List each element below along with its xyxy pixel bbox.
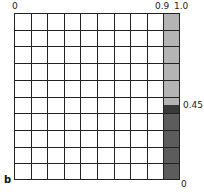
- right-axis-label-0: 0: [181, 180, 187, 189]
- grid-hline: [14, 46, 180, 47]
- top-axis-label-0.9: 0.9: [155, 2, 169, 11]
- unit-square-grid: [14, 13, 180, 180]
- grid-hline: [14, 13, 180, 14]
- grid-hline: [14, 163, 180, 164]
- grid-hline: [14, 80, 180, 81]
- grid-hline: [14, 147, 180, 148]
- grid-hline: [14, 63, 180, 64]
- grid-hline: [14, 113, 180, 114]
- grid-hline: [14, 130, 180, 131]
- right-axis-label-0.45: 0.45: [183, 101, 203, 110]
- top-axis-label-1.0: 1.0: [174, 2, 188, 11]
- grid-hline: [14, 30, 180, 31]
- panel-label: b: [4, 174, 11, 185]
- shaded-upper-region: [163, 13, 180, 105]
- top-axis-label-0: 0: [12, 2, 18, 11]
- grid-hline: [14, 179, 180, 180]
- threshold-band: [163, 105, 180, 113]
- grid-hline: [14, 97, 180, 98]
